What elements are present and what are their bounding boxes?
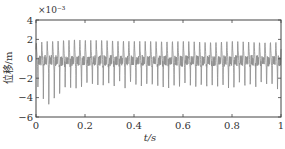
x-tick-label: 1 xyxy=(278,120,284,131)
x-tick-label: 0.8 xyxy=(224,120,240,131)
x-axis-label: t/s xyxy=(144,132,157,143)
x-tick-label: 0 xyxy=(33,120,39,131)
x-tick-label: 0.6 xyxy=(175,120,191,131)
y-axis-label: 位移/m xyxy=(2,51,14,84)
y-tick-label: 4 xyxy=(27,15,33,26)
x-tick-label: 0.4 xyxy=(126,120,142,131)
x-tick-label: 0.2 xyxy=(77,120,93,131)
y-tick-label: −4 xyxy=(18,92,33,103)
y-axis-ticks: 420−2−4−6 xyxy=(18,15,281,123)
displacement-chart: 00.20.40.60.81 420−2−4−6 ×10⁻³ t/s 位移/m xyxy=(0,0,285,149)
y-tick-label: −2 xyxy=(18,73,33,84)
y-exponent-label: ×10⁻³ xyxy=(38,5,66,15)
displacement-series-line xyxy=(36,40,281,104)
y-tick-label: 2 xyxy=(27,34,33,45)
plot-area xyxy=(36,40,281,104)
y-tick-label: −6 xyxy=(18,112,33,123)
y-tick-label: 0 xyxy=(27,53,33,64)
